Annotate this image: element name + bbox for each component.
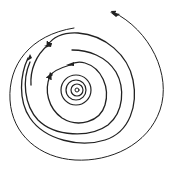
spiral-ring-4 xyxy=(47,62,106,123)
spiral-svg xyxy=(0,0,175,170)
spiral-ring-4b xyxy=(50,65,70,76)
arrow-icon xyxy=(44,43,52,47)
spiral-inner-ring-3 xyxy=(71,84,83,96)
spiral-ring-3 xyxy=(31,45,48,85)
arrowheads xyxy=(27,12,120,79)
spiral-curves xyxy=(10,12,163,160)
spiral-center xyxy=(75,88,79,92)
spiral-diagram xyxy=(0,0,175,170)
